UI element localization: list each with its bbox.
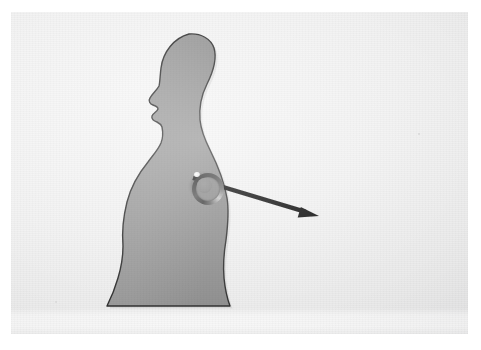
photographed-paper-sheet xyxy=(11,12,468,334)
page-canvas xyxy=(0,0,481,350)
human-body-silhouette xyxy=(107,34,230,306)
diagram-drawing-layer xyxy=(11,12,468,334)
